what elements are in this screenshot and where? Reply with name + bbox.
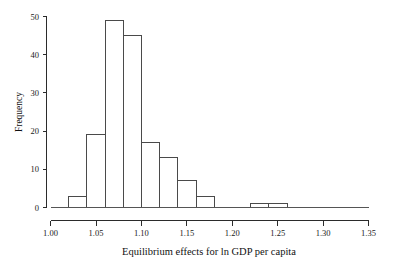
histogram-bar bbox=[251, 204, 269, 208]
x-tick-label-1-10: 1.10 bbox=[134, 228, 149, 238]
y-axis-title: Frequency bbox=[14, 92, 24, 132]
y-tick-label-40: 40 bbox=[31, 50, 40, 60]
x-tick-label-1-20: 1.20 bbox=[225, 228, 240, 238]
histogram-bar bbox=[105, 20, 123, 207]
y-tick-label-20: 20 bbox=[31, 126, 40, 136]
histogram-bar bbox=[160, 158, 178, 208]
x-tick-label-1-35: 1.35 bbox=[361, 228, 376, 238]
histogram-bar bbox=[123, 36, 141, 208]
y-tick-label-10: 10 bbox=[31, 164, 40, 174]
x-tick-label-1-25: 1.25 bbox=[270, 228, 285, 238]
histogram-bar bbox=[178, 181, 196, 208]
histogram-bar bbox=[269, 204, 287, 208]
x-axis-title: Equilibrium effects for ln GDP per capit… bbox=[122, 246, 296, 257]
histogram-bar bbox=[69, 196, 87, 208]
chart-page: 0 10 20 30 40 50 Frequency bbox=[0, 0, 395, 269]
histogram-bar bbox=[196, 196, 214, 208]
histogram-bar bbox=[87, 135, 105, 208]
x-tick-label-1-30: 1.30 bbox=[316, 228, 331, 238]
y-tick-label-0: 0 bbox=[35, 203, 39, 213]
y-tick-label-30: 30 bbox=[31, 88, 40, 98]
x-tick-label-1-00: 1.00 bbox=[43, 228, 58, 238]
y-tick-label-50: 50 bbox=[31, 12, 40, 22]
histogram-figure: 0 10 20 30 40 50 Frequency bbox=[0, 0, 395, 269]
x-tick-label-1-05: 1.05 bbox=[89, 228, 104, 238]
histogram-bar bbox=[142, 143, 160, 208]
x-tick-label-1-15: 1.15 bbox=[179, 228, 194, 238]
figure-background bbox=[0, 0, 395, 269]
